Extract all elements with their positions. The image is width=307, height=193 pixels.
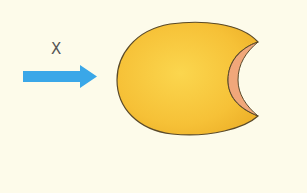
diagram-canvas [0, 0, 307, 193]
crescent-body-shape [117, 22, 258, 135]
arrow-icon [23, 65, 97, 88]
